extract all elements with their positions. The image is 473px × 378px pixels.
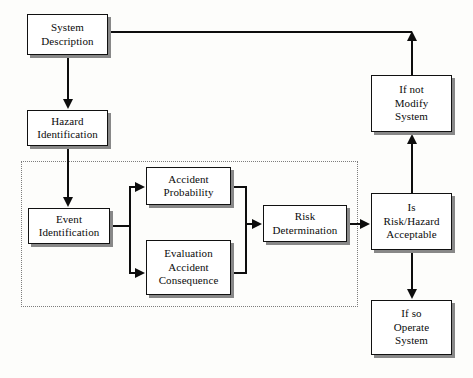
node-is-risk-hazard-acceptable[interactable]: Is Risk/Hazard Acceptable (371, 193, 452, 250)
edge-hazard-to-event-arrowhead (63, 197, 73, 207)
edge-acceptable-to-operate-line (411, 250, 413, 290)
edge-merge-to-risk-determination-arrowhead (252, 219, 262, 229)
edge-event-split-stub (110, 225, 130, 227)
flowchart-canvas: System Description Hazard Identification… (0, 0, 473, 378)
node-system-description[interactable]: System Description (27, 14, 108, 55)
edge-event-to-accident-probability-arrowhead (135, 182, 145, 192)
node-evaluation-accident-consequence[interactable]: Evaluation Accident Consequence (146, 240, 231, 295)
edge-event-to-evaluation-arrowhead (135, 268, 145, 278)
node-if-so-operate-system[interactable]: If so Operate System (371, 300, 452, 355)
edge-event-split-bus (129, 186, 131, 274)
node-hazard-identification[interactable]: Hazard Identification (27, 110, 108, 146)
edge-acceptable-to-modify-line (411, 143, 413, 193)
edge-merge-bus (245, 186, 247, 274)
edge-hazard-to-event-line (67, 146, 69, 199)
edge-modify-to-system-horizontal (108, 31, 412, 33)
edge-system-to-hazard-arrowhead (63, 99, 73, 109)
node-accident-probability[interactable]: Accident Probability (146, 167, 231, 205)
edge-acceptable-to-operate-arrowhead (407, 289, 417, 299)
edge-risk-to-acceptable-arrowhead (360, 219, 370, 229)
edge-system-to-hazard-line (67, 55, 69, 101)
node-if-not-modify-system[interactable]: If not Modify System (371, 75, 452, 132)
edge-modify-to-system-vertical (411, 40, 413, 75)
node-event-identification[interactable]: Event Identification (28, 208, 110, 244)
node-risk-determination[interactable]: Risk Determination (263, 205, 347, 242)
edge-acceptable-to-modify-arrowhead (407, 134, 417, 144)
edge-risk-to-acceptable-line (347, 223, 361, 225)
